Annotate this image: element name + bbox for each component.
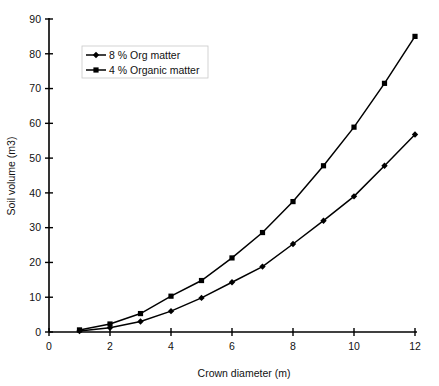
data-point-marker <box>382 81 387 86</box>
data-point-marker <box>168 294 173 299</box>
data-point-marker <box>199 278 204 283</box>
x-axis-tick-label: 2 <box>107 340 113 352</box>
legend-marker-icon <box>93 67 98 72</box>
data-point-marker <box>107 321 112 326</box>
data-point-marker <box>412 34 417 39</box>
x-axis-title: Crown diameter (m) <box>198 367 291 379</box>
y-axis-tick-label: 50 <box>29 152 41 164</box>
data-point-marker <box>229 255 234 260</box>
x-axis-tick-label: 6 <box>229 340 235 352</box>
data-point-marker <box>260 230 265 235</box>
y-axis-tick-label: 40 <box>29 187 41 199</box>
data-point-marker <box>290 199 295 204</box>
y-axis-tick-label: 30 <box>29 221 41 233</box>
y-axis-tick-label: 0 <box>35 326 41 338</box>
x-axis-tick-label: 8 <box>290 340 296 352</box>
x-axis-tick-label: 4 <box>168 340 174 352</box>
chart-legend: 8 % Org matter4 % Organic matter <box>82 46 208 78</box>
y-axis-tick-label: 70 <box>29 82 41 94</box>
line-chart-svg: 0102030405060708090 024681012 Soil volum… <box>0 0 439 386</box>
x-axis-tick-label: 0 <box>46 340 52 352</box>
data-point-marker <box>351 125 356 130</box>
data-point-marker <box>77 327 82 332</box>
y-axis-tick-label: 80 <box>29 48 41 60</box>
y-axis-tick-label: 60 <box>29 117 41 129</box>
y-axis-title: Soil volume (m3) <box>5 137 17 216</box>
legend-label: 4 % Organic matter <box>109 64 200 76</box>
legend-label: 8 % Org matter <box>109 49 181 61</box>
chart-background <box>0 0 439 386</box>
chart-container: 0102030405060708090 024681012 Soil volum… <box>0 0 439 386</box>
x-axis-tick-label: 12 <box>409 340 421 352</box>
y-axis-tick-label: 10 <box>29 291 41 303</box>
x-axis-tick-label: 10 <box>348 340 360 352</box>
y-axis-tick-label: 90 <box>29 13 41 25</box>
data-point-marker <box>138 311 143 316</box>
data-point-marker <box>321 163 326 168</box>
y-axis-tick-label: 20 <box>29 256 41 268</box>
